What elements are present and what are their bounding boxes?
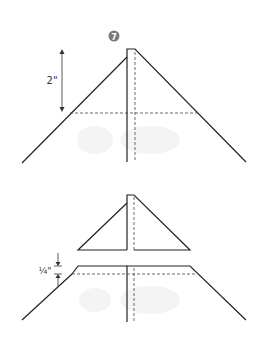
left-edge xyxy=(22,57,127,163)
cut-triangle xyxy=(78,195,190,250)
measurement-arrow-quarter-in xyxy=(54,253,62,286)
watermark xyxy=(77,126,180,314)
measurement-arrow-2in xyxy=(60,49,65,112)
step-badge: 7 xyxy=(109,31,120,42)
measurement-label-2in: 2" xyxy=(47,75,58,86)
diagram-canvas: 7 2" xyxy=(0,0,263,349)
measurement-label-quarter-in: ¼" xyxy=(39,266,52,276)
step-number: 7 xyxy=(111,33,117,42)
